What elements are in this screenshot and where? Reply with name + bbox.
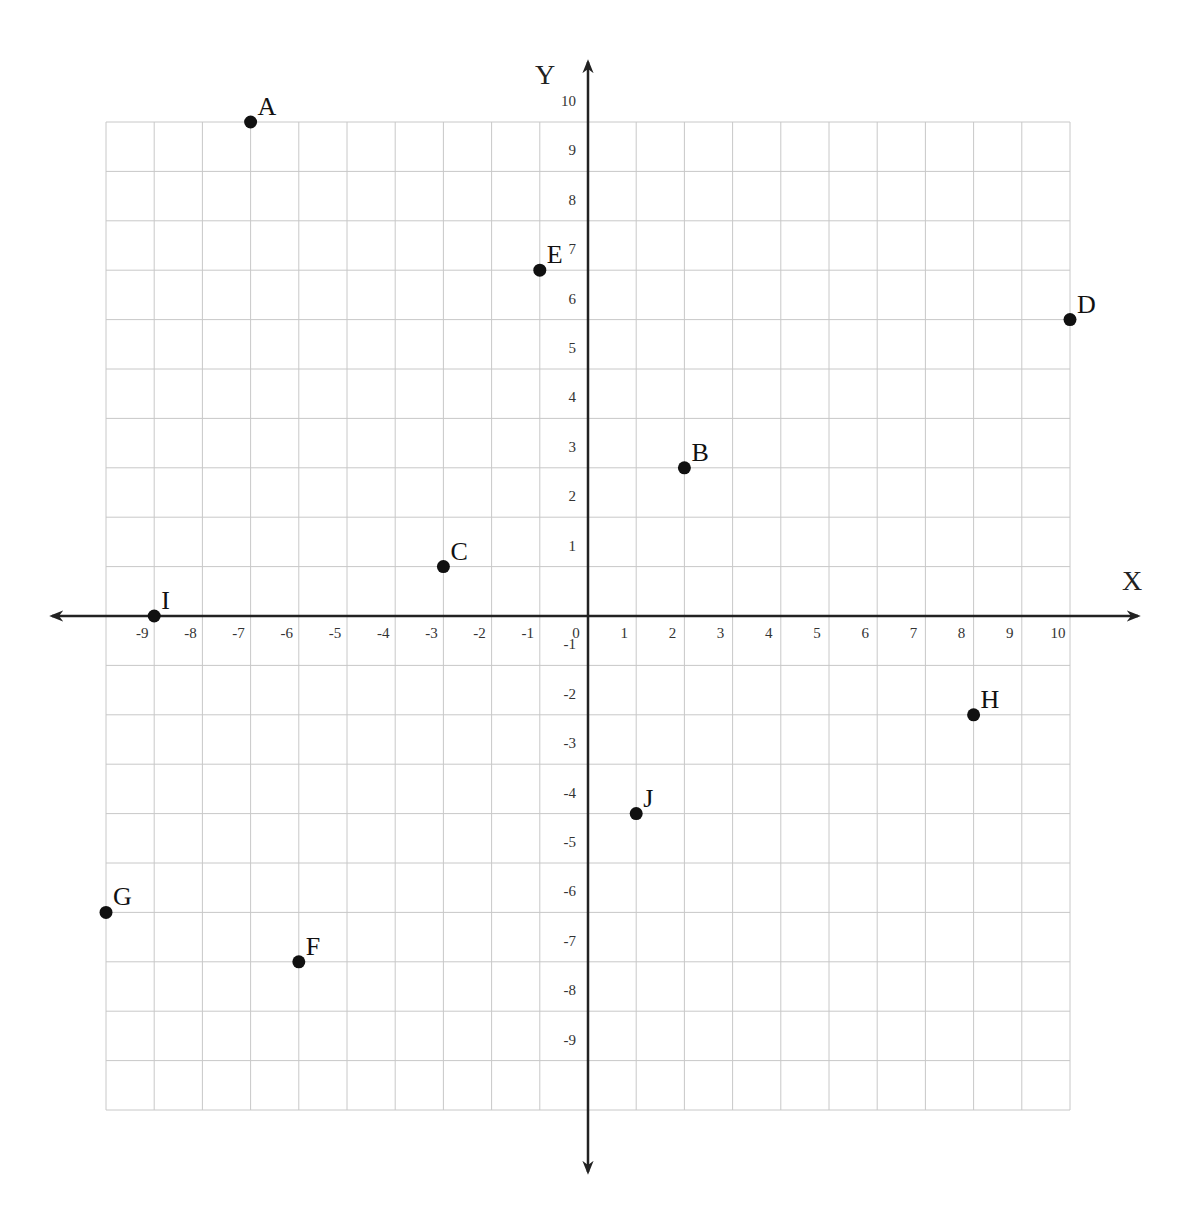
point-marker	[967, 708, 980, 721]
x-tick-label: 10	[1051, 625, 1066, 641]
point-label: J	[643, 784, 653, 813]
x-tick-label: -7	[232, 625, 245, 641]
point-marker	[630, 807, 643, 820]
point-marker	[244, 116, 257, 129]
y-tick-label: -1	[564, 636, 577, 652]
point-marker	[292, 955, 305, 968]
y-tick-label: -9	[564, 1032, 577, 1048]
data-point-f: F	[292, 932, 320, 969]
data-point-g: G	[100, 882, 132, 919]
x-tick-label: 2	[669, 625, 677, 641]
point-label: B	[691, 438, 708, 467]
x-tick-label: -5	[329, 625, 342, 641]
x-tick-label: 5	[813, 625, 821, 641]
point-marker	[148, 610, 161, 623]
x-tick-label: -8	[184, 625, 197, 641]
x-tick-label: 9	[1006, 625, 1014, 641]
axes: X Y	[52, 59, 1142, 1172]
y-tick-label: 2	[569, 488, 577, 504]
x-tick-label: -4	[377, 625, 390, 641]
y-tick-label: 10	[561, 93, 576, 109]
y-tick-label: 1	[569, 538, 577, 554]
x-tick-label: 3	[717, 625, 725, 641]
data-point-c: C	[437, 537, 468, 574]
point-label: A	[258, 92, 277, 121]
y-tick-label: -4	[564, 785, 577, 801]
data-point-a: A	[244, 92, 277, 129]
point-marker	[678, 461, 691, 474]
y-tick-label: 5	[569, 340, 577, 356]
x-tick-label: -1	[522, 625, 535, 641]
y-tick-label: 3	[569, 439, 577, 455]
point-marker	[100, 906, 113, 919]
x-tick-label: -3	[425, 625, 438, 641]
data-point-b: B	[678, 438, 709, 475]
y-tick-labels: 10987654321-1-2-3-4-5-6-7-8-9	[561, 93, 577, 1048]
data-points: ABCDEFGHIJ	[100, 92, 1096, 968]
x-tick-label: 7	[910, 625, 918, 641]
point-label: H	[981, 685, 1000, 714]
point-label: G	[113, 882, 132, 911]
y-axis-title: Y	[535, 59, 555, 90]
point-label: I	[161, 586, 170, 615]
data-point-e: E	[533, 240, 562, 277]
y-tick-label: -5	[564, 834, 577, 850]
y-tick-label: 8	[569, 192, 577, 208]
x-tick-label: 8	[958, 625, 966, 641]
coordinate-plane: X Y -9-8-7-6-5-4-3-2-1012345678910 10987…	[0, 0, 1200, 1232]
point-label: E	[547, 240, 563, 269]
x-tick-label: -2	[473, 625, 486, 641]
x-axis-title: X	[1122, 565, 1142, 596]
data-point-h: H	[967, 685, 1000, 722]
point-label: D	[1077, 290, 1096, 319]
data-point-d: D	[1064, 290, 1096, 327]
y-tick-label: -2	[564, 686, 577, 702]
x-tick-label: -6	[281, 625, 294, 641]
y-tick-label: -8	[564, 982, 577, 998]
x-tick-label: -9	[136, 625, 149, 641]
point-marker	[533, 264, 546, 277]
y-tick-label: 9	[569, 142, 577, 158]
point-marker	[437, 560, 450, 573]
y-tick-label: 6	[569, 291, 577, 307]
point-label: F	[306, 932, 320, 961]
y-tick-label: -7	[564, 933, 577, 949]
x-tick-label: 6	[861, 625, 869, 641]
point-marker	[1064, 313, 1077, 326]
x-tick-label: 4	[765, 625, 773, 641]
y-tick-label: 7	[569, 241, 577, 257]
y-tick-label: -3	[564, 735, 577, 751]
x-tick-label: 1	[620, 625, 628, 641]
x-tick-labels: -9-8-7-6-5-4-3-2-1012345678910	[136, 625, 1066, 641]
y-tick-label: -6	[564, 883, 577, 899]
point-label: C	[450, 537, 467, 566]
y-tick-label: 4	[569, 389, 577, 405]
data-point-j: J	[630, 784, 654, 821]
